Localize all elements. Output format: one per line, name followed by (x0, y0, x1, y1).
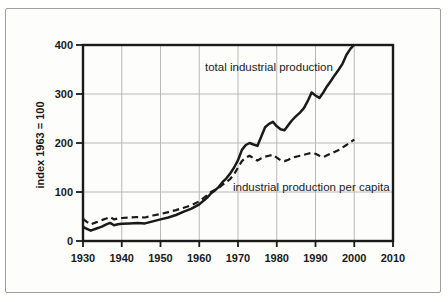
series-label-industrial-production-per-capita: industrial production per capita (233, 180, 390, 194)
x-tick-label: 1970 (216, 251, 260, 265)
x-tick-label: 2010 (371, 251, 415, 265)
y-tick-label: 300 (31, 87, 73, 101)
y-tick-label: 200 (31, 136, 73, 150)
x-tick-label: 2000 (332, 251, 376, 265)
x-tick-label: 1950 (139, 251, 183, 265)
y-tick-label: 100 (31, 185, 73, 199)
chart-canvas (83, 45, 393, 241)
x-tick-label: 1960 (177, 251, 221, 265)
plot-area: total industrial production industrial p… (83, 45, 393, 241)
x-tick-label: 1980 (255, 251, 299, 265)
x-tick-label: 1990 (294, 251, 338, 265)
series-label-total-industrial-production: total industrial production (205, 60, 333, 74)
x-tick-label: 1930 (61, 251, 105, 265)
y-tick-label: 0 (31, 234, 73, 248)
x-tick-label: 1940 (100, 251, 144, 265)
y-tick-label: 400 (31, 38, 73, 52)
